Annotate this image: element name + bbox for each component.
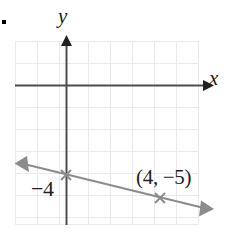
y-intercept-label: −4 <box>31 178 53 200</box>
line-arrowhead-right <box>199 201 214 217</box>
y-axis-arrowhead <box>61 35 72 46</box>
x-axis-label: x <box>209 68 218 89</box>
coordinate-plane-figure <box>0 0 226 240</box>
list-bullet <box>2 20 6 24</box>
y-axis-label: y <box>58 6 67 27</box>
point-coordinate-label: (4, −5) <box>136 167 191 188</box>
